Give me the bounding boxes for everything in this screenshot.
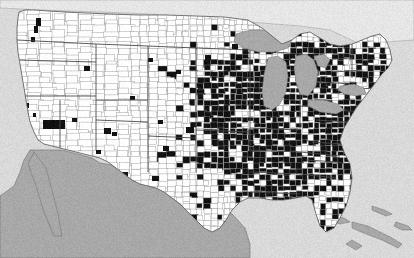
county-choropleth-map: County-level map of the contiguous Unite…	[0, 0, 414, 258]
map-canvas	[0, 0, 414, 258]
